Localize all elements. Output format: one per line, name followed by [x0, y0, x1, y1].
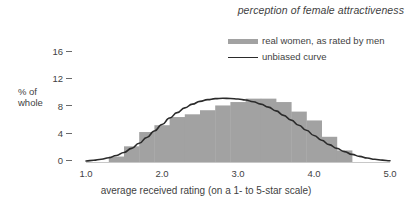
- histogram-bar: [215, 105, 231, 162]
- chart-figure: perception of female attractiveness real…: [0, 0, 412, 207]
- histogram-bar: [139, 132, 155, 162]
- histogram-bar: [261, 99, 277, 162]
- histogram-bar: [306, 120, 322, 162]
- plot-area: [0, 0, 412, 207]
- histogram-bar: [170, 117, 186, 162]
- x-axis-title: average received rating (on a 1- to 5-st…: [0, 185, 412, 196]
- histogram-bars: [109, 99, 353, 162]
- histogram-bar: [230, 102, 246, 162]
- histogram-bar: [291, 112, 307, 162]
- histogram-bar: [200, 110, 216, 162]
- histogram-bar: [185, 114, 201, 162]
- histogram-bar: [246, 99, 262, 162]
